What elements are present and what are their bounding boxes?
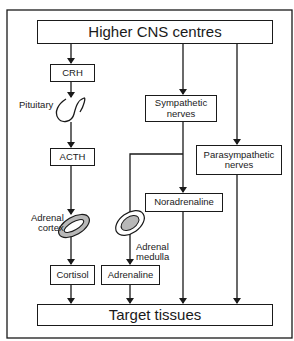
crh-box: CRH — [50, 64, 95, 82]
noradrenaline-box: Noradrenaline — [145, 193, 223, 212]
higher-cns-box: Higher CNS centres — [37, 20, 273, 44]
pituitary-icon — [56, 98, 84, 122]
pituitary-label: Pituitary — [19, 99, 53, 110]
adrenaline-box: Adrenaline — [101, 265, 160, 285]
target-tissues-box: Target tissues — [37, 304, 273, 326]
parasympathetic-box: Parasympathetic nerves — [196, 145, 282, 175]
acth-box: ACTH — [50, 148, 95, 166]
cortisol-box: Cortisol — [50, 265, 95, 285]
sympathetic-box: Sympathetic nerves — [145, 95, 217, 122]
adrenal-medulla-label: Adrenal medulla — [136, 242, 169, 263]
adrenal-cortex-label: Adrenal cortex — [31, 213, 64, 234]
